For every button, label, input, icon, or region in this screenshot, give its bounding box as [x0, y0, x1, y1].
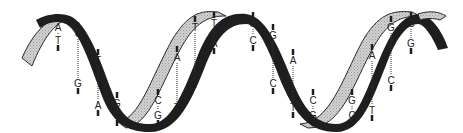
- base-bottom: C: [387, 75, 394, 86]
- base-top: T: [95, 55, 101, 66]
- base-bottom: T: [55, 35, 61, 46]
- base-top: T: [192, 22, 198, 33]
- base-top: C: [407, 18, 414, 29]
- base-bottom: A: [192, 72, 199, 83]
- base-top: C: [309, 95, 316, 106]
- base-top: A: [290, 55, 297, 66]
- base-pair: TA: [192, 16, 199, 88]
- base-top: G: [387, 22, 395, 33]
- base-bottom: G: [154, 110, 162, 121]
- base-top: C: [74, 28, 81, 39]
- base-bottom: A: [95, 100, 102, 111]
- base-bottom: T: [369, 105, 375, 116]
- base-bottom: C: [249, 35, 256, 46]
- base-top: A: [174, 52, 181, 63]
- base-bottom: G: [74, 78, 82, 89]
- base-top: A: [369, 50, 376, 61]
- base-top: T: [211, 18, 217, 29]
- base-pair: CG: [309, 89, 317, 126]
- base-top: G: [348, 95, 356, 106]
- base-pair: CG: [154, 89, 162, 126]
- base-bottom: G: [407, 38, 415, 49]
- base-bottom: A: [211, 38, 218, 49]
- base-top: A: [55, 22, 62, 33]
- base-bottom: C: [269, 78, 276, 89]
- base-bottom: G: [309, 110, 317, 121]
- base-pair: AT: [55, 16, 62, 51]
- base-top: C: [154, 95, 161, 106]
- base-pair: CG: [74, 22, 82, 94]
- base-top: G: [113, 98, 121, 109]
- base-bottom: T: [290, 102, 296, 113]
- dna-double-helix-diagram: ATCGTAGCCGATTATAGCGCATCGGCATGCCG: [0, 0, 463, 133]
- base-bottom: C: [113, 110, 120, 121]
- base-top: G: [269, 30, 277, 41]
- base-bottom: T: [174, 102, 180, 113]
- base-pair: AT: [174, 46, 181, 118]
- base-top: G: [249, 18, 257, 29]
- base-bottom: C: [348, 110, 355, 121]
